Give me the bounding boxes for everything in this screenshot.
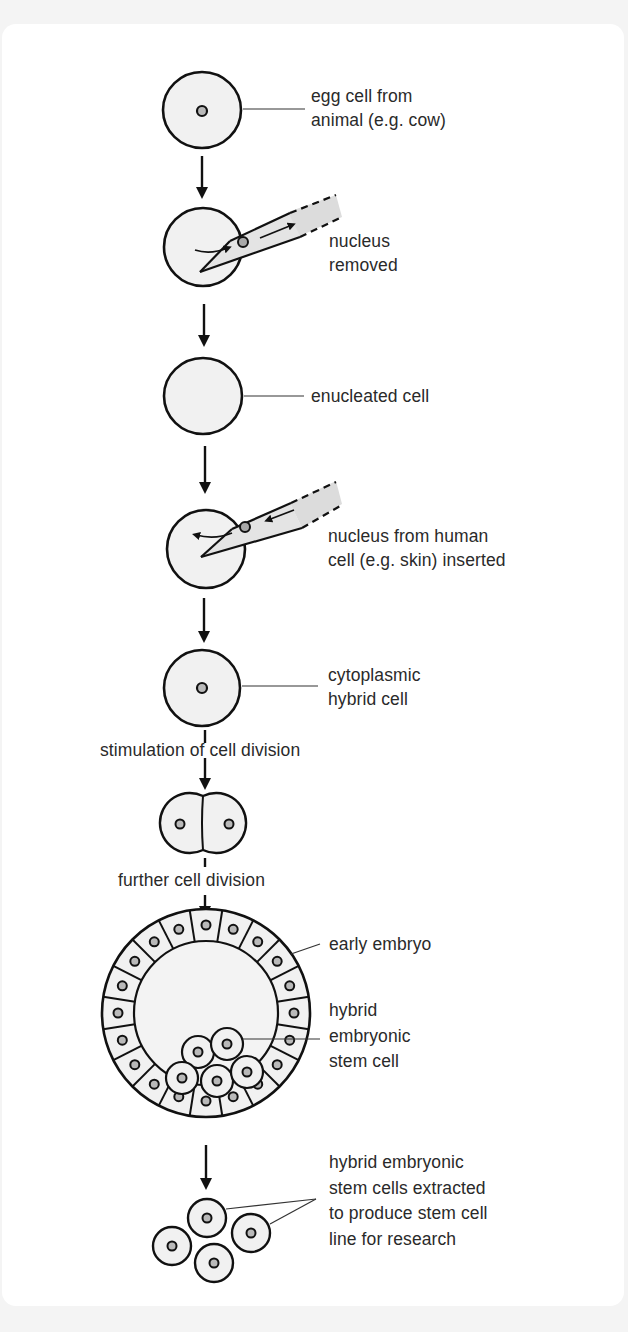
nucleus [118, 981, 127, 990]
nucleus [118, 1036, 127, 1045]
nucleus [174, 925, 183, 934]
nucleus [197, 683, 207, 693]
nucleus [290, 1009, 299, 1018]
nucleus [197, 106, 207, 116]
nucleus [130, 957, 139, 966]
nucleus [150, 1080, 159, 1089]
nucleus [273, 957, 282, 966]
label-further-division: further cell division [118, 868, 265, 892]
nucleus [225, 820, 234, 829]
nucleus [285, 1036, 294, 1045]
enucleated-cell [164, 358, 304, 434]
label-early-embryo: early embryo [329, 932, 431, 956]
egg-cell [163, 72, 305, 148]
label-enucleated-cell: enucleated cell [311, 384, 429, 408]
nucleus [202, 921, 211, 930]
nucleus [114, 1009, 123, 1018]
nucleus [240, 522, 250, 532]
leader-line [291, 944, 320, 954]
two-cell-embryo [160, 793, 246, 853]
label-cytoplasmic-hybrid: cytoplasmic hybrid cell [328, 663, 421, 711]
nucleus [273, 1060, 282, 1069]
nucleus [285, 981, 294, 990]
nucleus [176, 820, 185, 829]
nucleus [229, 925, 238, 934]
nucleus [238, 237, 248, 247]
label-egg-cell: egg cell from animal (e.g. cow) [311, 84, 446, 132]
cytoplasmic-hybrid-cell [164, 650, 318, 726]
label-nucleus-inserted: nucleus from human cell (e.g. skin) inse… [328, 524, 506, 572]
extracted-stem-cells [153, 1199, 316, 1282]
stem-cell-process-diagram [0, 0, 628, 1332]
label-stem-cell: hybrid embryonic stem cell [329, 998, 411, 1075]
label-nucleus-removed: nucleus removed [329, 229, 398, 277]
nucleus-removal-cell [164, 195, 342, 286]
nucleus [229, 1092, 238, 1101]
leader-line [226, 1199, 316, 1209]
label-extracted-stem-cells: hybrid embryonic stem cells extracted to… [329, 1150, 488, 1252]
nucleus [130, 1060, 139, 1069]
label-stimulation: stimulation of cell division [100, 738, 300, 762]
nucleus-insertion-cell [167, 481, 342, 588]
nucleus [202, 1097, 211, 1106]
nucleus [253, 937, 262, 946]
nucleus [150, 937, 159, 946]
